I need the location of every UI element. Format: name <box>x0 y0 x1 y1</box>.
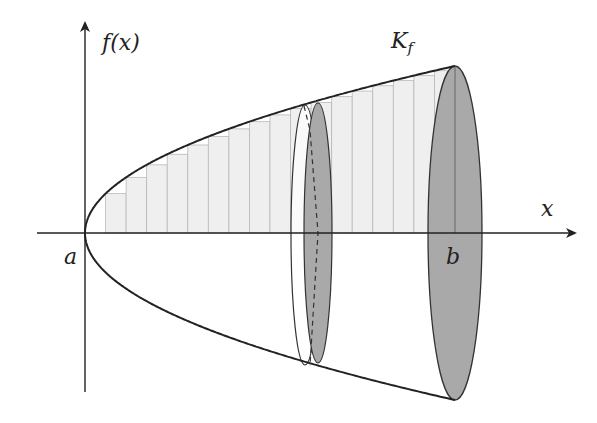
x-axis-label: x <box>541 196 553 221</box>
riemann-bars <box>106 71 455 233</box>
riemann-bar <box>373 86 394 233</box>
riemann-bar <box>106 194 127 233</box>
riemann-bar <box>229 129 250 233</box>
riemann-bar <box>208 137 229 233</box>
solid-label-sub: f <box>407 39 413 57</box>
y-axis-label: f(x) <box>102 30 140 55</box>
riemann-bar <box>352 91 373 233</box>
riemann-bar <box>167 154 188 233</box>
solid-label: Kf <box>391 28 413 57</box>
curve-f-lower <box>85 233 455 400</box>
a-label: a <box>64 244 77 269</box>
riemann-bar <box>249 122 270 233</box>
diagram-canvas <box>0 0 597 423</box>
riemann-bar <box>393 81 414 233</box>
riemann-bar <box>147 165 168 233</box>
riemann-bar <box>332 97 353 233</box>
riemann-bar <box>188 145 209 233</box>
b-label: b <box>446 244 460 269</box>
solid-of-revolution-figure: f(x) x a b Kf <box>0 0 597 423</box>
riemann-bar <box>270 115 291 233</box>
riemann-bar <box>126 177 147 233</box>
solid-label-main: K <box>391 28 407 53</box>
